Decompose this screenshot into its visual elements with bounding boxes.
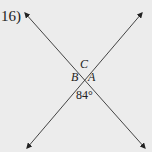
angle-label-b: B	[71, 71, 78, 83]
problem-number: 16)	[1, 9, 21, 24]
angle-label-a: A	[88, 71, 95, 83]
angle-label-c: C	[80, 58, 88, 70]
angle-measure: 84°	[76, 89, 93, 101]
line-2	[27, 13, 142, 148]
